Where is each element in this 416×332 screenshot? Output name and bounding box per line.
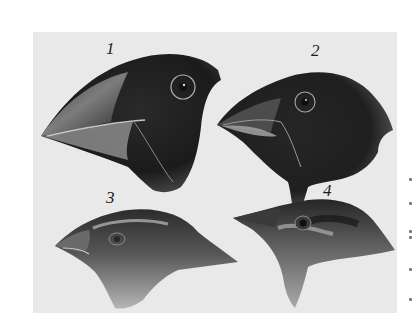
finch-label-3: 3 — [106, 189, 115, 206]
finch-heads-illustration: 1 2 3 4 — [33, 32, 397, 313]
finch-label-2: 2 — [311, 42, 320, 59]
cropped-text-fragments — [409, 170, 415, 310]
finch-label-1: 1 — [106, 40, 115, 57]
finch-3 — [55, 209, 238, 308]
finch-4 — [233, 199, 395, 308]
finch-1 — [41, 54, 221, 192]
finch-drawings — [33, 32, 397, 313]
finch-label-4: 4 — [323, 182, 332, 199]
finch-2 — [217, 72, 393, 217]
